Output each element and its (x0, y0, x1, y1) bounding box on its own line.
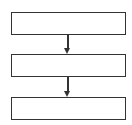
flowchart-step-2-box (11, 54, 126, 77)
arrow-down-icon (67, 77, 69, 92)
flowchart-step-1-box (11, 12, 126, 35)
flowchart-step-3-box (11, 97, 126, 120)
arrow-down-icon (67, 35, 69, 49)
